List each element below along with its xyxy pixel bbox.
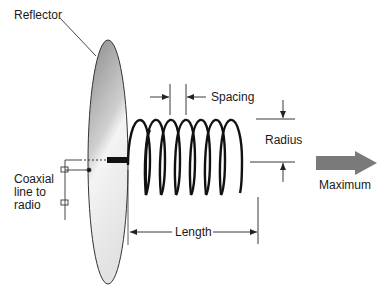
spacing-dimension: [150, 84, 206, 115]
feed-block: [107, 157, 129, 163]
helical-antenna-diagram: [0, 0, 384, 295]
coax-line-icon: [61, 160, 91, 220]
reflector-label: Reflector: [14, 8, 62, 23]
maximum-direction-arrow: [316, 151, 377, 175]
length-label: Length: [175, 225, 212, 240]
spacing-label: Spacing: [211, 90, 254, 105]
reflector-leader: [60, 18, 96, 56]
maximum-label: Maximum: [319, 178, 371, 193]
coax-label-line3: radio: [14, 198, 41, 213]
helical-coil: [128, 120, 242, 195]
radius-label: Radius: [265, 133, 302, 148]
